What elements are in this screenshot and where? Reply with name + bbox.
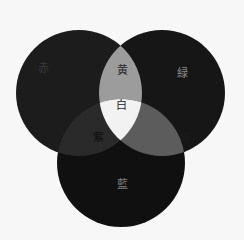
label-all: 白 [116,98,127,112]
label-red: 赤 [38,62,49,75]
label-red-green: 黄 [117,63,128,77]
label-red-blue: 紫 [93,131,104,144]
label-green-blue: 青 [180,132,191,145]
label-green: 緑 [177,66,188,80]
label-blue: 藍 [117,178,128,191]
venn-diagram: 赤 緑 藍 黄 紫 青 白 [0,0,244,240]
